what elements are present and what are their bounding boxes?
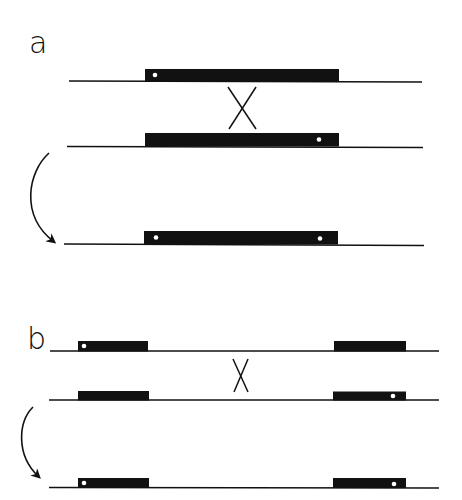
marker-dot [154,235,159,240]
recombination-diagram [0,0,462,500]
panel-b-product-strand [49,478,439,488]
marker-dot [82,344,87,349]
dna-line [67,147,423,148]
marker-dot [317,137,322,142]
panel-a-crossover-icon [228,87,256,129]
marker-dot [318,236,323,241]
panel-b [22,341,439,488]
repeat-block-left [78,341,148,352]
panel-a [31,69,424,246]
repeat-block [145,69,339,82]
marker-dot [392,482,397,487]
marker-dot [82,481,87,486]
repeat-block-right [334,341,406,352]
panel-b-crossover-icon [233,359,248,392]
repeat-block-left [78,391,149,401]
marker-dot [391,394,396,399]
panel-b-lower-strand [49,391,439,401]
panel-a-curved-arrow-icon [31,153,53,241]
panel-b-curved-arrow-icon [22,407,38,476]
panel-b-upper-strand [50,341,439,352]
panel-a-upper-strand [69,69,422,82]
panel-a-product-strand [64,231,424,246]
repeat-block [145,133,339,147]
repeat-block [144,231,338,245]
panel-a-lower-strand [67,133,423,148]
marker-dot [153,73,158,78]
repeat-block-left [78,478,149,488]
